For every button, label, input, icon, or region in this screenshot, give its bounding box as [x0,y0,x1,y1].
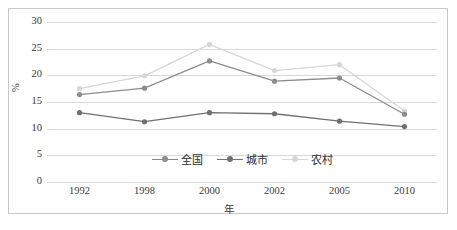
legend-swatch-icon [282,154,308,164]
series-line [80,61,405,114]
data-point-marker [207,58,212,63]
series-line [80,113,405,127]
y-tick-label: 20 [12,69,42,80]
series-line [80,44,405,111]
x-tick-label: 1998 [134,186,155,197]
data-point-marker [142,86,147,91]
data-point-marker [337,119,342,124]
data-point-marker [402,124,407,129]
legend-entry[interactable]: 全国 [152,151,203,167]
y-tick-label: 5 [12,149,42,160]
data-point-marker [77,110,82,115]
legend-marker-icon [162,156,168,162]
x-axis-title: 年 [0,201,457,216]
y-tick-label: 15 [12,96,42,107]
data-point-marker [337,62,342,67]
line-chart-figure: % 051015202530 全国城市农村 199219982000200220… [0,0,457,230]
data-point-marker [207,110,212,115]
y-tick-label: 25 [12,43,42,54]
data-point-marker [142,73,147,78]
data-point-marker [272,79,277,84]
legend-label: 农村 [311,151,333,167]
legend-marker-icon [292,156,298,162]
data-point-marker [272,68,277,73]
y-axis-tick-labels: 051015202530 [8,22,42,182]
y-tick-label: 10 [12,123,42,134]
data-point-marker [77,92,82,97]
y-tick-label: 30 [12,16,42,27]
x-tick-label: 1992 [69,186,90,197]
y-gridline [47,182,437,183]
data-point-marker [77,86,82,91]
legend-marker-icon [227,156,233,162]
legend-label: 城市 [246,151,268,167]
x-tick-label: 2005 [329,186,350,197]
legend-swatch-icon [217,154,243,164]
legend-label: 全国 [181,151,203,167]
legend-swatch-icon [152,154,178,164]
legend-entry[interactable]: 城市 [217,151,268,167]
y-tick-label: 0 [12,176,42,187]
data-point-marker [207,42,212,47]
data-point-marker [402,112,407,117]
x-tick-label: 2010 [394,186,415,197]
data-point-marker [337,75,342,80]
legend-entry[interactable]: 农村 [282,151,333,167]
x-tick-label: 2002 [264,186,285,197]
data-point-marker [142,119,147,124]
x-tick-label: 2000 [199,186,220,197]
chart-legend: 全国城市农村 [47,150,437,168]
data-point-marker [272,111,277,116]
x-axis-tick-labels: 199219982000200220052010 [47,186,437,202]
